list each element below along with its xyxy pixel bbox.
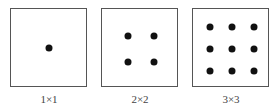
dot-icon <box>229 46 236 53</box>
panel-2x2 <box>101 8 178 87</box>
label-3x3: 3×3 <box>191 93 271 105</box>
dot-icon <box>125 33 132 40</box>
label-1x1: 1×1 <box>9 93 89 105</box>
dot-icon <box>207 46 214 53</box>
dot-icon <box>151 33 158 40</box>
dot-icon <box>251 24 258 31</box>
dot-icon <box>251 46 258 53</box>
dot-icon <box>151 59 158 66</box>
panel-3x3 <box>192 8 269 87</box>
dot-icon <box>207 68 214 75</box>
dot-icon <box>207 24 214 31</box>
dot-icon <box>45 44 52 51</box>
dot-icon <box>251 68 258 75</box>
dot-icon <box>229 24 236 31</box>
dot-icon <box>125 59 132 66</box>
label-2x2: 2×2 <box>100 93 180 105</box>
dot-icon <box>229 68 236 75</box>
panel-1x1 <box>10 8 87 87</box>
